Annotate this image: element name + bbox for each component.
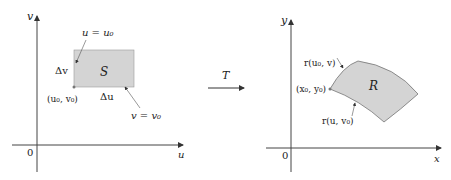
corner-label: (u₀, v₀) — [47, 94, 78, 104]
region-s-label: S — [100, 65, 108, 79]
axis-label-u: u — [178, 149, 184, 160]
r-u-v0-label: r(u, v₀) — [322, 116, 354, 126]
axis-label-x: x — [434, 153, 440, 164]
axis-label-v: v — [27, 10, 34, 23]
delta-v-label: Δv — [55, 65, 68, 76]
transformation-diagram: v u 0 S u = u₀ Δv (u₀, v₀) Δu v = v₀ T y… — [0, 0, 451, 180]
delta-u-label: Δu — [100, 91, 114, 102]
uv-plane: v u 0 S u = u₀ Δv (u₀, v₀) Δu v = v₀ — [12, 10, 184, 172]
xy-plane: y x 0 R r(u₀, v) (x₀, y₀) r(u, v₀) — [266, 14, 441, 172]
axis-label-y: y — [280, 14, 288, 27]
transform-arrow: T — [208, 69, 244, 88]
r-u0-v-label: r(u₀, v) — [304, 58, 336, 68]
region-r-label: R — [368, 79, 378, 93]
u-eq-label: u = u₀ — [82, 27, 114, 38]
origin-label-xy: 0 — [282, 150, 288, 161]
corner-label-xy: (x₀, y₀) — [296, 84, 326, 94]
origin-label: 0 — [27, 147, 33, 158]
v-eq-label: v = v₀ — [131, 110, 161, 121]
transform-label: T — [222, 69, 231, 82]
